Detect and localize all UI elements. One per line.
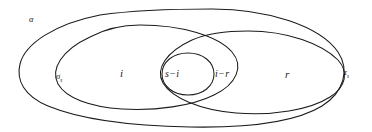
label-right-set-tau: τs	[344, 68, 349, 79]
label-left-set-sigma-subscript: s	[60, 77, 62, 83]
venn-diagram-figure: α σs τs i s−i i−r r	[0, 0, 372, 132]
label-region-r: r	[285, 69, 289, 80]
label-left-set-sigma: σs	[56, 72, 62, 83]
label-right-set-tau-subscript: s	[347, 73, 349, 79]
label-outer-set-alpha: α	[29, 15, 33, 24]
label-region-i: i	[120, 68, 123, 79]
venn-diagram-canvas	[0, 0, 372, 132]
label-region-i-minus-r: i−r	[215, 69, 229, 79]
label-region-s-minus-i: s−i	[165, 69, 179, 79]
right-ellipse-tau-path	[160, 31, 344, 114]
left-ellipse-sigma-path	[56, 25, 238, 109]
